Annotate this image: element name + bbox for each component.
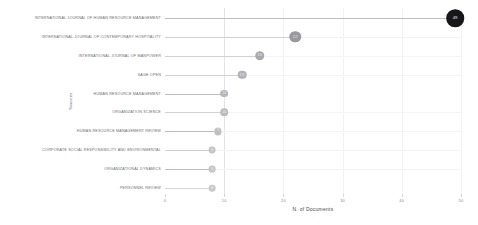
x-axis-tick-label: 0: [164, 198, 166, 203]
y-axis-title: Sources: [68, 92, 73, 109]
data-point-value-label: 10: [222, 111, 226, 114]
x-axis-tick-label: 30: [340, 198, 345, 203]
data-point-value-label: 8: [211, 186, 213, 189]
data-point-value-label: 8: [211, 149, 213, 152]
data-point-value-label: 22: [293, 35, 298, 39]
x-axis-tick-label: 50: [459, 198, 464, 203]
lollipop-stem: [165, 18, 455, 19]
lollipop-stem: [165, 150, 212, 151]
category-label: INTERNATIONAL JOURNAL OF HUMAN RESOURCE …: [35, 16, 161, 20]
category-label: INTERNATIONAL JOURNAL OF MANPOWER: [79, 54, 161, 58]
category-label: HUMAN RESOURCE MANAGEMENT REVIEW: [77, 129, 161, 133]
data-point-marker[interactable]: 10: [220, 109, 228, 117]
category-label: ORGANIZATION SCIENCE: [112, 110, 161, 114]
category-label: INTERNATIONAL JOURNAL OF CONTEMPORARY HO…: [42, 35, 161, 39]
lollipop-stem: [165, 112, 224, 113]
lollipop-stem: [165, 37, 295, 38]
category-label: HUMAN RESOURCE MANAGEMENT: [94, 92, 161, 96]
data-point-value-label: 10: [222, 92, 226, 95]
data-point-marker[interactable]: 16: [255, 51, 265, 61]
data-point-marker[interactable]: 8: [209, 166, 216, 173]
x-axis-title: N. of Documents: [165, 206, 461, 212]
category-label: SAGE OPEN: [138, 73, 161, 77]
data-point-value-label: 13: [240, 73, 245, 77]
data-point-value-label: 49: [453, 16, 458, 20]
data-point-value-label: 16: [257, 54, 262, 58]
data-point-marker[interactable]: 49: [446, 9, 464, 27]
category-label: PERSONNEL REVIEW: [120, 186, 161, 190]
data-point-marker[interactable]: 8: [209, 147, 216, 154]
x-gridline-50: [461, 8, 462, 194]
data-point-marker[interactable]: 10: [220, 90, 228, 98]
x-axis-tick: [224, 194, 225, 197]
x-axis-tick-label: 10: [222, 198, 227, 203]
data-point-value-label: 9: [217, 130, 219, 133]
lollipop-stem: [165, 131, 218, 132]
x-axis-tick: [283, 194, 284, 197]
lollipop-stem: [165, 188, 212, 189]
data-point-value-label: 8: [211, 167, 213, 170]
x-axis-tick: [402, 194, 403, 197]
lollipop-stem: [165, 56, 260, 57]
x-axis-tick-label: 20: [281, 198, 286, 203]
x-axis-tick: [343, 194, 344, 197]
lollipop-stem: [165, 75, 242, 76]
category-label: CORPORATE SOCIAL RESPONSIBILITY AND ENVI…: [42, 148, 161, 152]
category-label: ORGANIZATIONAL DYNAMICS: [104, 167, 161, 171]
x-axis-tick: [461, 194, 462, 197]
data-point-marker[interactable]: 22: [289, 31, 301, 43]
x-axis-tick-label: 40: [399, 198, 404, 203]
data-point-marker[interactable]: 8: [209, 185, 216, 192]
x-axis-tick: [165, 194, 166, 197]
lollipop-stem: [165, 94, 224, 95]
data-point-marker[interactable]: 13: [238, 70, 247, 79]
lollipop-stem: [165, 169, 212, 170]
lollipop-chart: 49INTERNATIONAL JOURNAL OF HUMAN RESOURC…: [0, 0, 478, 225]
